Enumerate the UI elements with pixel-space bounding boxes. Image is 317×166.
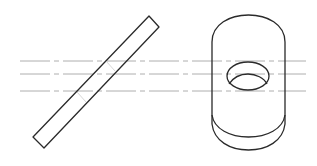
technical-drawing [0, 0, 317, 166]
hole-inner-arc [229, 74, 267, 84]
rod-hidden-line-1 [106, 61, 115, 71]
cylinder-body-outline [212, 15, 285, 117]
inclined-rod [33, 16, 159, 148]
cylinder-with-hole [212, 15, 285, 150]
hole-outer-ellipse [227, 62, 269, 90]
rod-outline [33, 16, 159, 148]
cylinder-bottom-edge-lower [212, 117, 285, 150]
rod-hidden-line-2 [77, 92, 86, 102]
cylinder-bottom-edge-upper [212, 115, 285, 137]
